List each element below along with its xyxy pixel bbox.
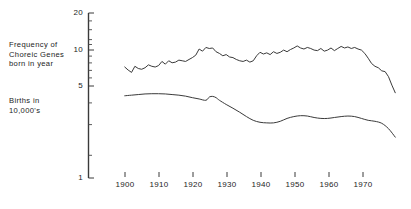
series-label-choreic-genes: Frequency of Choreic Genes born in year bbox=[9, 40, 64, 69]
x-axis-label-1970: 1970 bbox=[348, 180, 378, 189]
series-label-choreic-line-2: Choreic Genes bbox=[9, 50, 64, 60]
y-axis-label-5: 5 bbox=[57, 81, 83, 90]
series-label-births-line-2: 10,000's bbox=[9, 106, 40, 116]
x-axis-label-1960: 1960 bbox=[314, 180, 344, 189]
series-label-choreic-line-3: born in year bbox=[9, 59, 64, 69]
series-label-choreic-line-1: Frequency of bbox=[9, 40, 64, 50]
x-axis-label-1940: 1940 bbox=[246, 180, 276, 189]
y-axis-label-20: 20 bbox=[57, 8, 83, 17]
series-label-births-line-1: Births in bbox=[9, 96, 40, 106]
y-axis-label-1: 1 bbox=[57, 173, 83, 182]
series-line-choreic-genes bbox=[125, 46, 395, 93]
x-axis-label-1900: 1900 bbox=[110, 180, 140, 189]
series-label-births: Births in 10,000's bbox=[9, 96, 40, 115]
x-axis-label-1950: 1950 bbox=[280, 180, 310, 189]
x-axis-label-1910: 1910 bbox=[144, 180, 174, 189]
x-axis-label-1930: 1930 bbox=[212, 180, 242, 189]
chart-figure: 20 10 5 1 1900 1910 1920 1930 1940 1950 … bbox=[0, 0, 411, 209]
series-line-births bbox=[125, 94, 395, 137]
x-axis-label-1920: 1920 bbox=[178, 180, 208, 189]
